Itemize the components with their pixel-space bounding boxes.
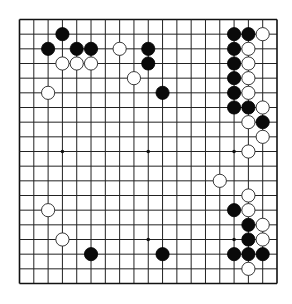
black-stone (242, 28, 255, 41)
black-stone (227, 86, 240, 99)
go-board (0, 0, 292, 304)
black-stone (242, 218, 255, 231)
black-stone (42, 42, 55, 55)
go-board-diagram (0, 0, 292, 304)
white-stone (242, 189, 255, 202)
white-stone (242, 116, 255, 129)
white-stone (256, 101, 269, 114)
star-point (232, 238, 236, 242)
white-stone (256, 130, 269, 143)
black-stone (70, 42, 83, 55)
white-stone (213, 174, 226, 187)
white-stone (127, 72, 140, 85)
black-stone (227, 72, 240, 85)
white-stone (56, 233, 69, 246)
black-stone (242, 248, 255, 261)
black-stone (156, 248, 169, 261)
black-stone (256, 116, 269, 129)
white-stone (242, 42, 255, 55)
black-stone (156, 86, 169, 99)
white-stone (242, 145, 255, 158)
white-stone (242, 57, 255, 70)
black-stone (142, 42, 155, 55)
star-point (146, 150, 150, 154)
white-stone (242, 72, 255, 85)
black-stone (242, 233, 255, 246)
black-stone (56, 28, 69, 41)
black-stone (227, 248, 240, 261)
black-stone (84, 42, 97, 55)
black-stone (84, 248, 97, 261)
white-stone (242, 204, 255, 217)
star-point (146, 238, 150, 242)
white-stone (70, 57, 83, 70)
black-stone (142, 57, 155, 70)
white-stone (256, 218, 269, 231)
black-stone (227, 42, 240, 55)
black-stone (256, 248, 269, 261)
white-stone (56, 57, 69, 70)
black-stone (242, 101, 255, 114)
white-stone (42, 86, 55, 99)
white-stone (84, 57, 97, 70)
black-stone (227, 204, 240, 217)
black-stone (227, 101, 240, 114)
white-stone (256, 233, 269, 246)
white-stone (256, 28, 269, 41)
white-stone (242, 86, 255, 99)
white-stone (113, 42, 126, 55)
star-point (61, 150, 65, 154)
white-stone (242, 262, 255, 275)
white-stone (42, 204, 55, 217)
black-stone (227, 28, 240, 41)
black-stone (227, 57, 240, 70)
star-point (232, 150, 236, 154)
